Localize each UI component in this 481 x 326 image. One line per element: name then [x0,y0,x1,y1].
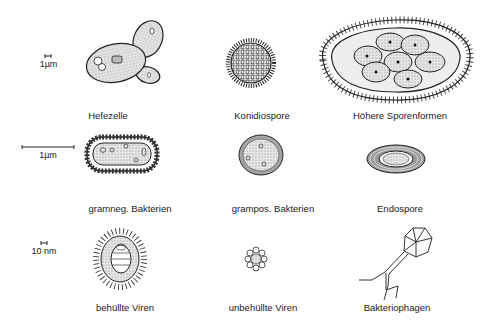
caption-grampos-bakterien: grampos. Bakterien [232,203,314,214]
endospore-illustration [367,145,425,173]
bacteriophage-illustration [359,228,432,300]
scale-label-row1: 1µm [37,59,60,69]
scale-bar-1um-row1 [45,54,51,58]
caption-hefezelle: Hefezelle [88,110,128,121]
higher-spore-forms-illustration [322,20,470,100]
scale-bar-10nm [41,241,47,245]
scale-bar-1um-row2 [22,145,74,149]
caption-unbehuellte-viren: unbehüllte Viren [229,302,298,313]
enveloped-virus-illustration [96,231,144,287]
caption-hoehere-sporenformen: Höhere Sporenformen [353,110,447,121]
yeast-cell-illustration [83,16,169,88]
scale-label-row3: 10 nm [28,246,60,256]
scale-label-row2: 1µm [34,150,62,160]
caption-konidiospore: Konidiospore [234,110,289,121]
caption-endospore: Endospore [377,203,423,214]
non-enveloped-virus-illustration [245,247,267,271]
conidiospore-illustration [228,40,274,86]
illustration-canvas [0,0,481,326]
caption-bakteriophagen: Bakteriophagen [364,302,431,313]
caption-gramneg-bakterien: gramneg. Bakterien [89,203,172,214]
gram-negative-bacterium-illustration [87,137,157,171]
gram-positive-bacterium-illustration [239,135,283,175]
caption-behuellte-viren: behüllte Viren [96,302,154,313]
